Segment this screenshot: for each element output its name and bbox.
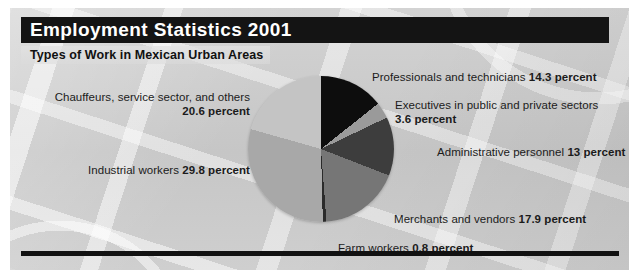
pie-disc: [248, 76, 394, 222]
bottom-rule: [21, 251, 619, 256]
page-subtitle: Types of Work in Mexican Urban Areas: [30, 48, 263, 62]
slice-label-executives-pct: 3.6 percent: [395, 113, 456, 125]
slice-label-industrial-pct: 29.8 percent: [182, 164, 250, 176]
page-title: Employment Statistics 2001: [21, 19, 292, 41]
slice-label-executives-name: Executives in public and private sectors: [395, 99, 598, 111]
pie-chart: [248, 76, 394, 222]
slice-label-administrative-pct: 13 percent: [567, 146, 625, 158]
slice-label-chauffeurs-name: Chauffeurs, service sector, and others: [55, 91, 250, 103]
slice-label-professionals-name: Professionals and technicians: [372, 71, 529, 83]
slice-label-industrial: Industrial workers 29.8 percent: [28, 163, 250, 177]
slice-label-merchants: Merchants and vendors 17.9 percent: [394, 212, 586, 226]
slice-label-merchants-name: Merchants and vendors: [394, 213, 518, 225]
slice-label-professionals-pct: 14.3 percent: [529, 71, 597, 83]
employment-statistics-figure: Employment Statistics 2001 Types of Work…: [10, 8, 629, 270]
slice-label-professionals: Professionals and technicians 14.3 perce…: [372, 70, 597, 84]
title-bar: Employment Statistics 2001: [21, 17, 609, 43]
slice-label-industrial-name: Industrial workers: [88, 164, 182, 176]
slice-label-merchants-pct: 17.9 percent: [518, 213, 586, 225]
slice-label-chauffeurs-pct: 20.6 percent: [182, 105, 250, 117]
subtitle-band: Types of Work in Mexican Urban Areas: [21, 46, 270, 64]
slice-label-administrative: Administrative personnel 13 percent: [437, 145, 625, 159]
slice-label-executives: Executives in public and private sectors…: [395, 98, 627, 126]
slice-label-chauffeurs: Chauffeurs, service sector, and others 2…: [40, 90, 250, 118]
slice-label-administrative-name: Administrative personnel: [437, 146, 567, 158]
